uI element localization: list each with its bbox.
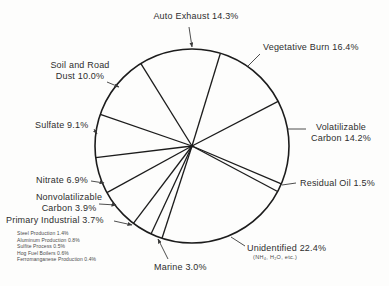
label-sulfate: Sulfate 9.1% — [35, 120, 88, 131]
label-unidentified-note: (NH₄, H₂O, etc.) — [253, 254, 326, 261]
label-residual-oil: Residual Oil 1.5% — [300, 178, 375, 189]
label-soil-road-dust-line1: Soil and Road — [38, 60, 122, 71]
industrial-breakdown-line: Ferromanganese Production 0.4% — [17, 256, 96, 263]
label-soil-road-dust: Soil and Road Dust 10.0% — [38, 60, 122, 82]
label-sulfate-text: Sulfate 9.1% — [35, 120, 88, 131]
leader-residual-oil — [282, 183, 296, 185]
primary-industrial-breakdown-list: Steel Production 1.4%Aluminum Production… — [17, 230, 96, 263]
slice-boundaries — [96, 53, 282, 238]
label-marine: Marine 3.0% — [154, 262, 207, 273]
slice-boundary — [192, 53, 220, 146]
slice-boundary — [192, 101, 278, 146]
leader-auto-exhaust — [189, 27, 192, 47]
pie-chart-figure: Auto Exhaust 14.3% Vegetative Burn 16.4%… — [0, 0, 389, 286]
label-vegetative-burn: Vegetative Burn 16.4% — [263, 42, 359, 53]
label-primary-industrial-text: Primary Industrial 3.7% — [6, 215, 104, 226]
label-auto-exhaust: Auto Exhaust 14.3% — [153, 11, 238, 22]
leader-primary-industrial — [114, 221, 132, 225]
leader-unidentified — [231, 237, 245, 246]
label-volatilizable-carbon: Volatilizable Carbon 14.2% — [302, 122, 380, 144]
slice-boundary — [192, 146, 281, 184]
label-nitrate-text: Nitrate 6.9% — [36, 175, 88, 186]
label-primary-industrial: Primary Industrial 3.7% — [6, 215, 104, 226]
label-marine-text: Marine 3.0% — [154, 262, 207, 273]
label-nonvolatilizable-carbon-line1: Nonvolatilizable — [33, 192, 105, 203]
industrial-breakdown-line: Aluminum Production 0.8% — [17, 237, 96, 244]
label-auto-exhaust-text: Auto Exhaust 14.3% — [153, 11, 238, 22]
label-nonvolatilizable-carbon-line2: Carbon 3.9% — [33, 203, 105, 214]
label-volatilizable-carbon-line1: Volatilizable — [302, 122, 380, 133]
label-residual-oil-text: Residual Oil 1.5% — [300, 178, 375, 189]
industrial-breakdown-line: Sulfite Process 0.5% — [17, 243, 96, 250]
slice-boundary — [133, 146, 192, 223]
label-nonvolatilizable-carbon: Nonvolatilizable Carbon 3.9% — [33, 192, 105, 214]
slice-boundary — [100, 114, 192, 146]
slice-boundary — [192, 146, 278, 192]
slice-boundary — [151, 146, 192, 234]
leader-marine — [158, 239, 168, 259]
label-vegetative-burn-text: Vegetative Burn 16.4% — [263, 42, 359, 53]
slice-boundary — [96, 146, 192, 158]
leader-vegetative-burn — [248, 54, 260, 66]
label-volatilizable-carbon-line2: Carbon 14.2% — [302, 133, 380, 144]
label-unidentified-text: Unidentified 22.4% — [247, 243, 326, 254]
industrial-breakdown-line: Steel Production 1.4% — [17, 230, 96, 237]
slice-boundary — [141, 64, 192, 146]
label-soil-road-dust-line2: Dust 10.0% — [38, 71, 122, 82]
label-nitrate: Nitrate 6.9% — [36, 175, 88, 186]
label-unidentified: Unidentified 22.4% (NH₄, H₂O, etc.) — [247, 243, 326, 261]
industrial-breakdown-line: Hog Fuel Boilers 0.6% — [17, 250, 96, 257]
